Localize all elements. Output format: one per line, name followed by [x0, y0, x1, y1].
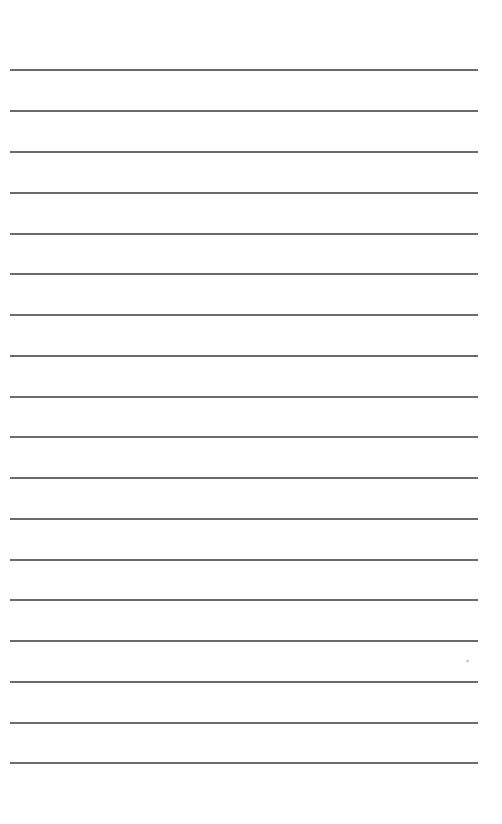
ruled-line	[10, 477, 478, 479]
ruled-line	[10, 192, 478, 194]
ruled-line	[10, 762, 478, 764]
ruled-line	[10, 314, 478, 316]
ruled-line	[10, 273, 478, 275]
ruled-line	[10, 599, 478, 601]
ruled-line	[10, 436, 478, 438]
ruled-line	[10, 396, 478, 398]
ruled-line	[10, 151, 478, 153]
ruled-line	[10, 110, 478, 112]
ruled-line	[10, 640, 478, 642]
scan-speck	[466, 659, 470, 662]
lined-paper-page	[0, 0, 502, 824]
ruled-line	[10, 355, 478, 357]
ruled-line	[10, 69, 478, 71]
ruled-line	[10, 233, 478, 235]
ruled-line	[10, 559, 478, 561]
ruled-line	[10, 722, 478, 724]
ruled-line	[10, 681, 478, 683]
ruled-line	[10, 518, 478, 520]
